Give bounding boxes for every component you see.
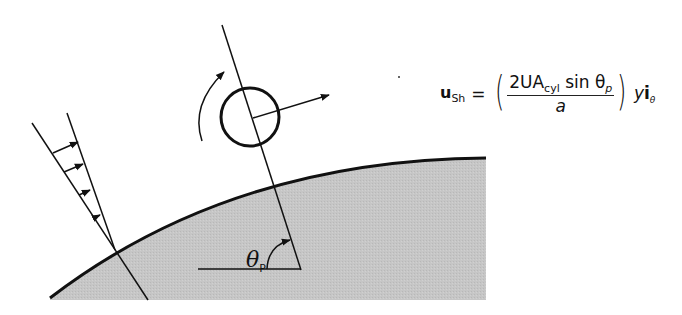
velocity-arrow: [253, 95, 329, 118]
diagram-svg: [0, 0, 682, 315]
rotation-arrow: [199, 72, 224, 141]
equals-sign: =: [471, 84, 485, 104]
diagram-canvas: θP uSh = ( 2UAcyl sin θp a ) yiθ: [0, 0, 682, 315]
fraction: 2UAcyl sin θp a: [507, 72, 614, 116]
cylinder: [221, 88, 279, 146]
right-paren: ): [617, 71, 626, 111]
shear-velocity-formula: uSh = ( 2UAcyl sin θp a ) yiθ: [440, 72, 655, 116]
denominator: a: [556, 96, 566, 116]
dot: [398, 76, 400, 78]
formula-tail: yiθ: [634, 83, 655, 105]
left-paren: (: [495, 71, 504, 111]
formula-lhs: uSh: [440, 83, 465, 105]
angle-label: θP: [246, 247, 266, 275]
numerator: 2UAcyl sin θp: [507, 72, 614, 96]
curved-wall: [50, 158, 486, 300]
